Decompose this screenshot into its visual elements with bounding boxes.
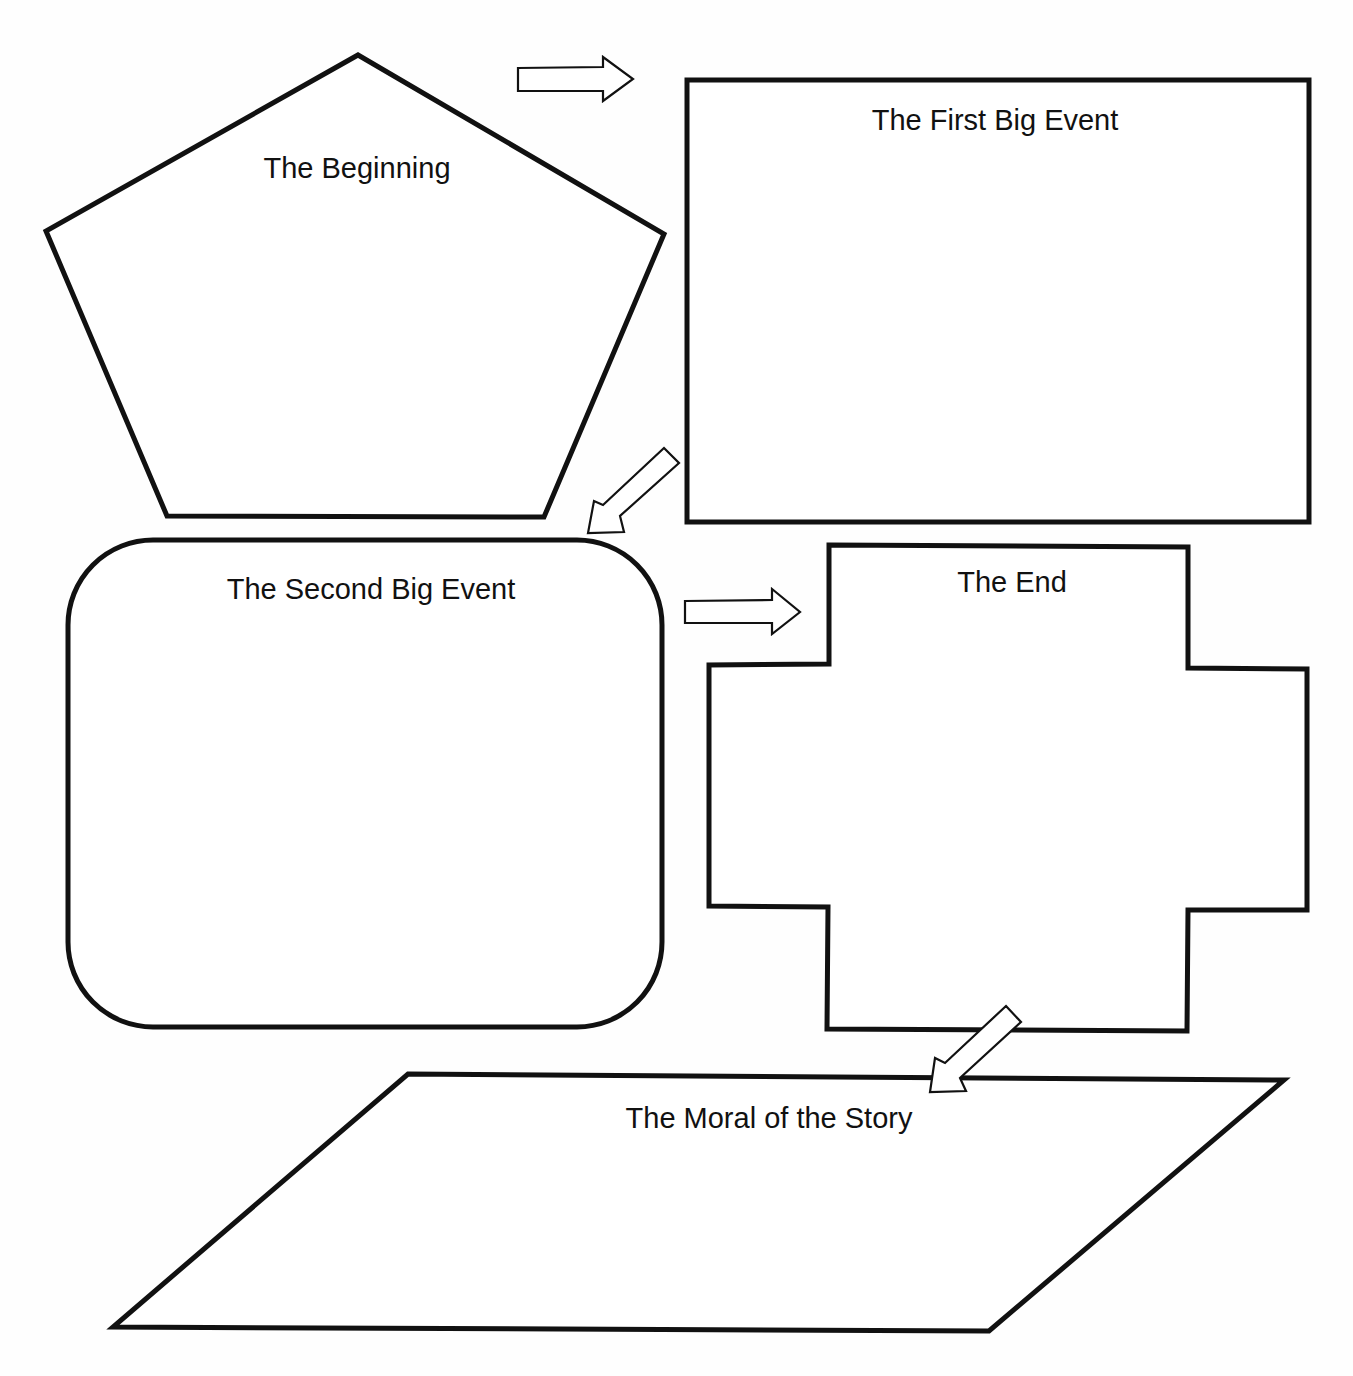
second-event-rounded-rectangle bbox=[68, 540, 662, 1027]
beginning-pentagon bbox=[46, 55, 664, 517]
end-label: The End bbox=[957, 566, 1067, 599]
beginning-label: The Beginning bbox=[263, 152, 450, 185]
arrow-right-icon bbox=[685, 589, 800, 634]
moral-label: The Moral of the Story bbox=[626, 1102, 913, 1135]
end-cross bbox=[709, 545, 1307, 1031]
diagram-shapes bbox=[0, 0, 1353, 1376]
story-map-diagram: The Beginning The First Big Event The Se… bbox=[0, 0, 1353, 1376]
first-event-rectangle bbox=[687, 80, 1309, 522]
first-event-label: The First Big Event bbox=[872, 104, 1119, 137]
second-event-label: The Second Big Event bbox=[227, 573, 516, 606]
arrow-down-left-icon bbox=[588, 448, 679, 533]
arrow-right-icon bbox=[518, 57, 633, 101]
